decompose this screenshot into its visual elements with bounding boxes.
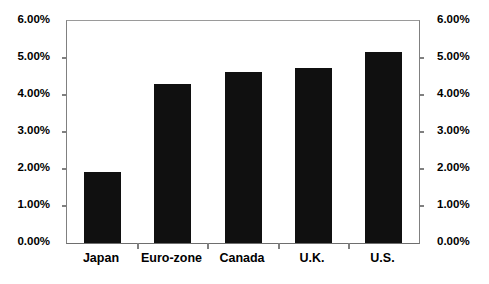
left-axis-tick-label: 3.00% [17,125,50,137]
category-axis-tick [278,243,280,249]
bar-chart: 6.00% 5.00% 4.00% 3.00% 2.00% 1.00% 0.00… [0,0,489,284]
bar-canada [225,72,262,243]
bar-uk [295,68,332,243]
bars-layer [67,21,419,243]
category-label-euro-zone: Euro-zone [136,252,207,265]
category-axis-labels: Japan Euro-zone Canada U.K. U.S. [66,252,418,274]
left-axis-tick-label: 4.00% [17,88,50,100]
right-axis-tick-label: 3.00% [437,125,470,137]
axis-tick [419,94,424,96]
right-axis-tick-label: 0.00% [437,236,470,248]
bar-japan [84,172,121,243]
axis-tick [419,205,424,207]
left-axis-tick-label: 2.00% [17,162,50,174]
category-label-uk: U.K. [277,252,347,265]
right-axis-tick-label: 4.00% [437,88,470,100]
category-axis-tick [137,243,139,249]
left-axis-tick-label: 6.00% [17,14,50,26]
axis-tick [419,57,424,59]
category-label-canada: Canada [207,252,277,265]
right-value-axis: 6.00% 5.00% 4.00% 3.00% 2.00% 1.00% 0.00… [425,0,489,284]
axis-tick [419,131,424,133]
left-axis-tick-label: 1.00% [17,199,50,211]
bar-us [365,52,402,243]
category-axis-tick [207,243,209,249]
bar-euro-zone [154,84,191,243]
left-axis-tick-label: 5.00% [17,51,50,63]
category-label-us: U.S. [347,252,418,265]
left-axis-tick-label: 0.00% [17,236,50,248]
left-value-axis: 6.00% 5.00% 4.00% 3.00% 2.00% 1.00% 0.00… [0,0,58,284]
right-axis-tick-label: 2.00% [437,162,470,174]
category-axis-tick [348,243,350,249]
right-axis-tick-label: 6.00% [437,14,470,26]
right-axis-tick-label: 5.00% [437,51,470,63]
category-label-japan: Japan [66,252,136,265]
right-axis-tick-label: 1.00% [437,199,470,211]
axis-tick [419,168,424,170]
plot-area [66,20,420,244]
